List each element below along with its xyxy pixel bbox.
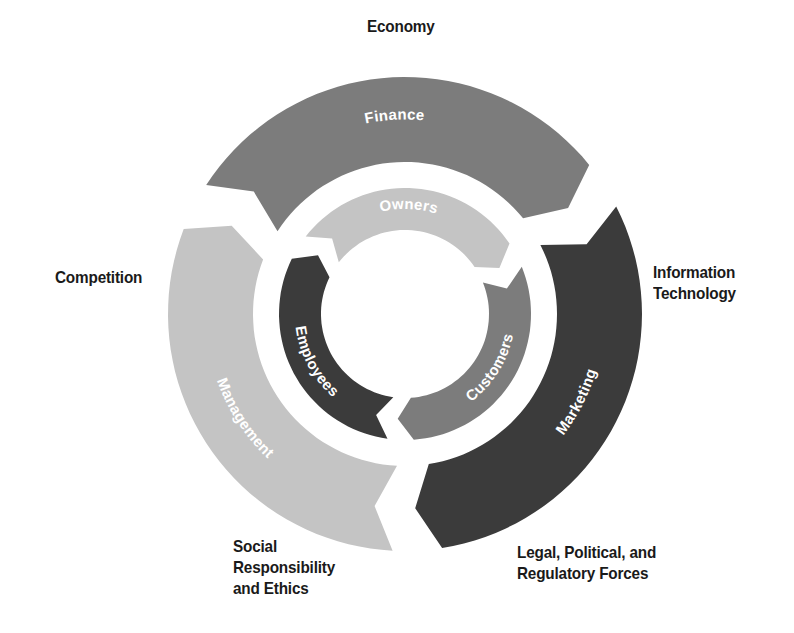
label-economy: Economy [367,16,435,37]
segment-customers [398,267,531,440]
outer-ring: FinanceMarketingManagement [168,77,642,551]
label-information-technology: Information Technology [653,262,736,304]
business-environment-diagram: FinanceMarketingManagement OwnersCustome… [0,0,794,633]
label-social-responsibility-and-ethics: Social Responsibility and Ethics [233,536,335,599]
segment-employees [279,255,393,438]
label-competition: Competition [55,267,142,288]
label-legal-political-regulatory-forces: Legal, Political, and Regulatory Forces [517,542,656,584]
segment-marketing [415,206,642,548]
inner-ring: OwnersCustomersEmployees [279,188,531,440]
